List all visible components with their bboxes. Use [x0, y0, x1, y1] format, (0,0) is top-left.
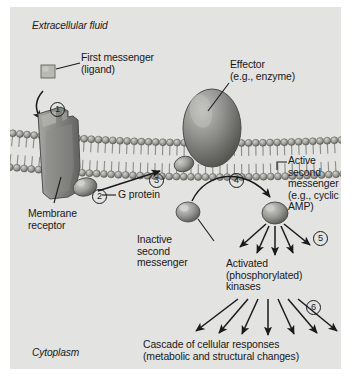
inactive-second-messenger-sphere [176, 202, 200, 222]
step-marker-1: 1 [50, 102, 65, 117]
step-marker-4: 4 [229, 173, 244, 188]
diagram-panel: Extracellular fluid Cytoplasm First mess… [10, 7, 341, 369]
inactive-second-messenger-label: Inactive second messenger [137, 234, 188, 269]
leader-lines [54, 63, 287, 241]
step-marker-3: 3 [149, 173, 164, 188]
ligand-square [41, 65, 55, 78]
figure-root: Extracellular fluid Cytoplasm First mess… [0, 0, 352, 379]
step-marker-5: 5 [313, 231, 328, 246]
membrane-receptor-label: Membrane receptor [28, 208, 77, 231]
cytoplasm-label: Cytoplasm [32, 347, 79, 359]
step-marker-2: 2 [92, 189, 107, 204]
activated-kinases-label: Activated (phosphorylated) kinases [226, 258, 302, 293]
step-marker-6: 6 [306, 300, 321, 315]
cascade-label: Cascade of cellular responses (metabolic… [143, 339, 299, 362]
arrows-step-5 [240, 224, 310, 255]
g-protein-label: G protein [118, 189, 160, 201]
active-second-messenger-sphere [262, 202, 288, 224]
effector-label: Effector (e.g., enzyme) [230, 59, 295, 82]
first-messenger-label: First messenger (ligand) [81, 52, 154, 75]
extracellular-fluid-label: Extracellular fluid [32, 20, 108, 32]
active-second-messenger-label: Active second messenger (e.g., cyclic AM… [288, 155, 339, 213]
effector-enzyme-ellipse [172, 89, 241, 174]
